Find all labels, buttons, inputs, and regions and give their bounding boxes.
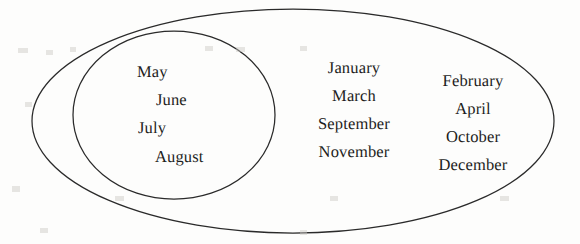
set-item-march: March (300, 88, 408, 105)
set-item-october: October (418, 129, 528, 146)
set-item-september: September (300, 116, 408, 133)
set-item-november: November (300, 144, 408, 161)
set-item-may: May (137, 64, 168, 81)
set-item-december: December (418, 157, 528, 174)
inner-circle (73, 31, 275, 199)
set-item-june: June (156, 92, 187, 109)
set-item-april: April (418, 101, 528, 118)
set-item-february: February (418, 73, 528, 90)
set-diagram-figure: May June July August January March Septe… (0, 0, 580, 244)
outer-column-one: January March September November (300, 60, 408, 172)
set-item-january: January (300, 60, 408, 77)
outer-column-two: February April October December (418, 73, 528, 185)
set-item-july: July (138, 120, 166, 137)
set-item-august: August (155, 149, 204, 166)
